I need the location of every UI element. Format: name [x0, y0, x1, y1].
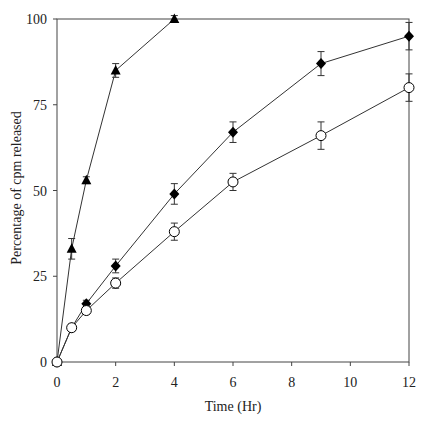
x-tick-label: 2 [112, 375, 119, 390]
circle-marker [169, 227, 179, 237]
series-layer [52, 14, 414, 368]
triangle-series [52, 14, 179, 367]
y-tick-label: 0 [40, 355, 47, 370]
x-tick-label: 0 [54, 375, 61, 390]
circle-marker [81, 306, 91, 316]
y-axis-ticks: 0255075100 [26, 12, 57, 370]
circle-marker [316, 131, 326, 141]
y-tick-label: 100 [26, 12, 47, 27]
y-tick-label: 75 [33, 98, 47, 113]
circle-marker [111, 278, 121, 288]
circle-series [52, 74, 414, 367]
circle-marker [52, 357, 62, 367]
x-tick-label: 8 [288, 375, 295, 390]
diamond-marker [316, 58, 326, 69]
x-axis-label: Time (Hr) [205, 399, 262, 415]
x-tick-label: 12 [402, 375, 416, 390]
y-axis-label: Percentage of cpm released [9, 111, 24, 265]
x-tick-label: 6 [230, 375, 237, 390]
y-tick-label: 50 [33, 184, 47, 199]
release-chart: 0255075100 024681012 Time (Hr) Percentag… [0, 0, 427, 426]
triangle-marker [169, 14, 179, 24]
x-tick-label: 10 [343, 375, 357, 390]
diamond-series [52, 22, 414, 367]
diamond-marker [404, 31, 414, 42]
triangle-marker [111, 65, 121, 75]
circle-marker [404, 83, 414, 93]
triangle-marker [67, 243, 77, 253]
x-axis-ticks: 024681012 [54, 362, 417, 390]
circle-marker [228, 177, 238, 187]
triangle-marker [81, 175, 91, 185]
x-tick-label: 4 [171, 375, 178, 390]
series-line [57, 36, 409, 362]
y-tick-label: 25 [33, 269, 47, 284]
circle-marker [67, 323, 77, 333]
